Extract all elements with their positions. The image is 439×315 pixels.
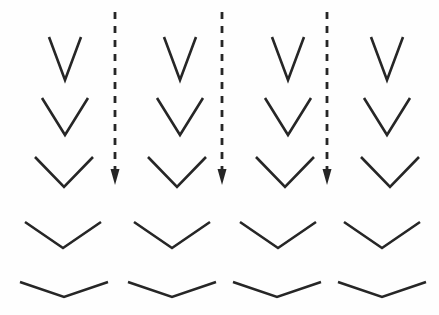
chevron-progression-figure — [0, 0, 439, 315]
figure-background — [0, 0, 439, 315]
figure-canvas — [0, 0, 439, 315]
